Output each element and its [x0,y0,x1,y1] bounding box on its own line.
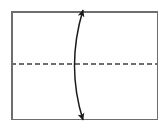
fold-diagram-svg [0,0,168,129]
figure-container: Rectangle with horizontal dashed fold li… [0,0,168,129]
curved-double-arrow [75,10,84,120]
outer-rectangle [12,12,158,120]
